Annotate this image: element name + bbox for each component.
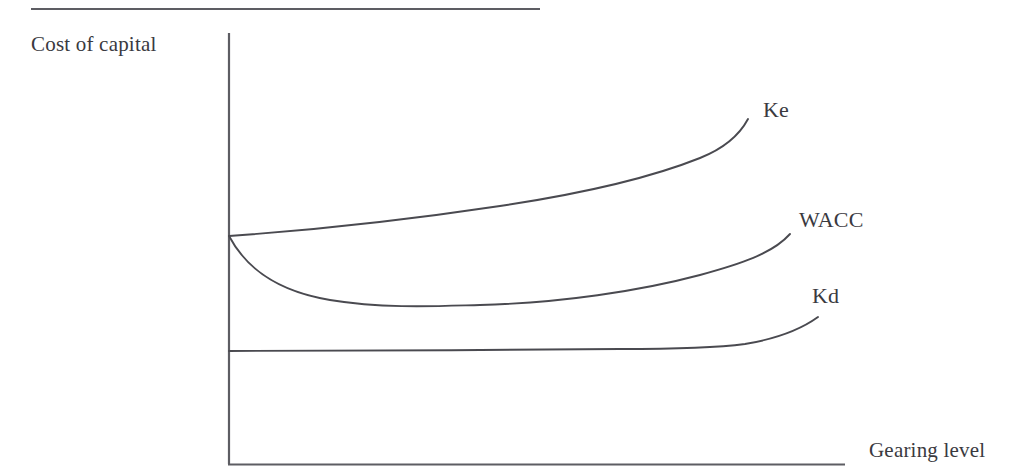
- chart-plot-area: [0, 0, 1028, 471]
- curve-kd: [229, 317, 818, 351]
- series-label-wacc: WACC: [799, 209, 864, 231]
- series-label-kd: Kd: [812, 285, 839, 307]
- y-axis-label: Cost of capital: [31, 34, 156, 55]
- curve-ke: [229, 119, 748, 236]
- curve-wacc: [229, 234, 790, 306]
- x-axis-label: Gearing level: [869, 440, 985, 461]
- series-label-ke: Ke: [763, 99, 789, 121]
- figure-canvas: Cost of capital Gearing level Ke WACC Kd: [0, 0, 1028, 471]
